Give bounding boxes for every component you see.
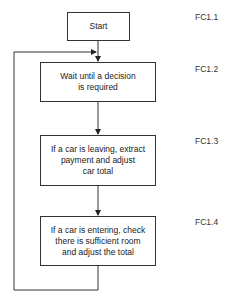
node-entering-line1: If a car is entering, check <box>51 225 146 236</box>
label-fc1-4: FC1.4 <box>195 217 218 227</box>
node-leaving-line3: car total <box>51 166 145 177</box>
node-wait-line2: is required <box>60 82 135 93</box>
node-car-leaving: If a car is leaving, extract payment and… <box>40 135 156 186</box>
node-wait-line1: Wait until a decision <box>60 71 135 82</box>
node-entering-line2: there is sufficient room <box>51 236 146 247</box>
node-leaving-line1: If a car is leaving, extract <box>51 144 145 155</box>
node-wait: Wait until a decision is required <box>40 62 156 102</box>
label-fc1-3: FC1.3 <box>195 136 218 146</box>
label-fc1-2: FC1.2 <box>195 64 218 74</box>
node-start: Start <box>67 12 130 41</box>
label-fc1-1: FC1.1 <box>195 12 218 22</box>
node-start-text: Start <box>90 21 108 32</box>
node-leaving-line2: payment and adjust <box>51 155 145 166</box>
node-entering-line3: and adjust the total <box>51 247 146 258</box>
node-car-entering: If a car is entering, check there is suf… <box>40 216 156 266</box>
